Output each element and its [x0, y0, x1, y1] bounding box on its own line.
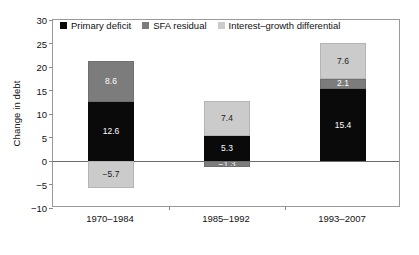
- y-tick-7: −5: [36, 179, 53, 190]
- y-tick-2: 20: [36, 62, 53, 73]
- y-tick-4: 10: [36, 109, 53, 120]
- plot-area: 302520151050−5−10 8.612.6−5.77.45.3−1.37…: [52, 19, 400, 207]
- bar-segment-value: 12.6: [103, 127, 120, 136]
- bar-segment-value: −1.3: [219, 161, 236, 167]
- bar-segment-value: −5.7: [103, 170, 120, 179]
- legend-label: Interest–growth differential: [229, 20, 341, 31]
- bar-segment[interactable]: 7.4: [204, 101, 250, 136]
- bar-segment-value: 8.6: [105, 77, 117, 86]
- x-tick-label-2: 1985–1992: [202, 213, 250, 224]
- chart-legend: Primary deficitSFA residualInterest–grow…: [60, 20, 340, 31]
- bar-segment-value: 7.6: [337, 57, 349, 66]
- legend-item-1[interactable]: Primary deficit: [60, 20, 131, 31]
- x-tick-mark: [169, 206, 170, 210]
- bar-segment[interactable]: −5.7: [88, 161, 134, 188]
- bar-segment-value: 7.4: [221, 114, 233, 123]
- legend-swatch-icon: [142, 22, 149, 29]
- bar-2[interactable]: 7.45.3−1.3: [204, 20, 250, 206]
- y-axis-label: Change in debt: [11, 54, 22, 174]
- y-tick-0: 30: [36, 15, 53, 26]
- bar-3[interactable]: 7.62.115.4: [320, 20, 366, 206]
- y-tick-mark: [49, 208, 53, 209]
- legend-item-2[interactable]: SFA residual: [142, 20, 206, 31]
- x-tick-mark: [285, 206, 286, 210]
- legend-swatch-icon: [60, 22, 67, 29]
- y-tick-mark: [49, 67, 53, 68]
- bar-segment[interactable]: 12.6: [88, 102, 134, 161]
- bar-segment-value: 15.4: [335, 121, 352, 130]
- bar-segment[interactable]: 5.3: [204, 136, 250, 161]
- bar-segment-value: 2.1: [337, 79, 349, 88]
- x-tick-label-3: 1993–2007: [318, 213, 366, 224]
- y-tick-mark: [49, 137, 53, 138]
- bar-segment[interactable]: 15.4: [320, 89, 366, 161]
- y-tick-mark: [49, 114, 53, 115]
- y-tick-8: −10: [31, 203, 53, 214]
- bar-segment[interactable]: 2.1: [320, 79, 366, 89]
- bar-segment-value: 5.3: [221, 144, 233, 153]
- y-tick-mark: [49, 20, 53, 21]
- chart-figure: Change in debt 302520151050−5−10 8.612.6…: [0, 0, 419, 255]
- bar-1[interactable]: 8.612.6−5.7: [88, 20, 134, 206]
- y-tick-1: 25: [36, 38, 53, 49]
- y-tick-mark: [49, 90, 53, 91]
- y-tick-5: 5: [42, 132, 53, 143]
- legend-label: SFA residual: [153, 20, 206, 31]
- y-tick-mark: [49, 43, 53, 44]
- legend-swatch-icon: [218, 22, 225, 29]
- legend-label: Primary deficit: [71, 20, 131, 31]
- x-tick-label-1: 1970–1984: [86, 213, 134, 224]
- bar-segment[interactable]: −1.3: [204, 161, 250, 167]
- y-tick-3: 15: [36, 85, 53, 96]
- bar-segment[interactable]: 7.6: [320, 43, 366, 79]
- y-tick-6: 0: [42, 156, 53, 167]
- legend-item-3[interactable]: Interest–growth differential: [218, 20, 341, 31]
- y-tick-mark: [49, 184, 53, 185]
- bar-segment[interactable]: 8.6: [88, 61, 134, 101]
